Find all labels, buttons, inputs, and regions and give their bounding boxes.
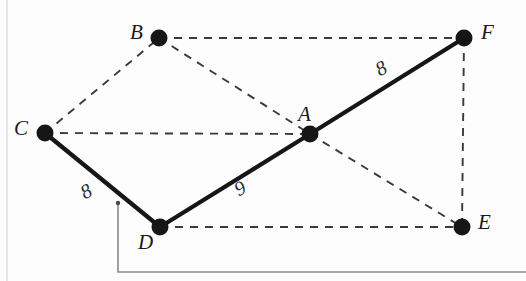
dashed-edge-b-a: [159, 38, 310, 134]
vertex-label-a: A: [298, 104, 311, 125]
dashed-edge-layer: [45, 38, 464, 227]
vertex-label-f: F: [481, 22, 494, 43]
leader-dot-artifact: [116, 201, 120, 205]
artifact-layer: [7, 0, 526, 281]
vertex-dot-b[interactable]: [151, 30, 168, 47]
dashed-edge-c-a: [45, 133, 310, 134]
solid-edge-c-d: [45, 133, 160, 227]
vertex-dot-a[interactable]: [302, 126, 319, 143]
diagram-canvas: ABCDEF 898: [0, 0, 526, 281]
dashed-edge-f-e: [462, 38, 464, 227]
vertex-label-d: D: [138, 232, 153, 253]
vertex-label-c: C: [14, 118, 28, 139]
geometry-figure: [0, 0, 526, 281]
vertex-label-e: E: [478, 212, 491, 233]
dashed-edge-a-e: [310, 134, 462, 227]
vertex-label-b: B: [130, 22, 143, 43]
vertex-dot-f[interactable]: [456, 30, 473, 47]
dashed-edge-c-b: [45, 38, 159, 133]
vertex-dot-c[interactable]: [37, 125, 54, 142]
vertex-dot-d[interactable]: [152, 219, 169, 236]
solid-edge-a-f: [310, 38, 464, 134]
vertex-dot-e[interactable]: [454, 219, 471, 236]
vertex-dot-layer: [37, 30, 473, 236]
